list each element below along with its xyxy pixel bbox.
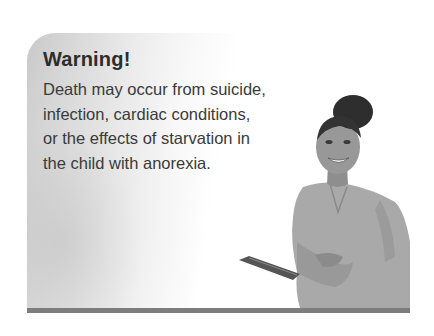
nurse-illustration <box>235 92 410 308</box>
card-bottom-bar <box>27 308 410 313</box>
warning-title: Warning! <box>43 48 131 71</box>
